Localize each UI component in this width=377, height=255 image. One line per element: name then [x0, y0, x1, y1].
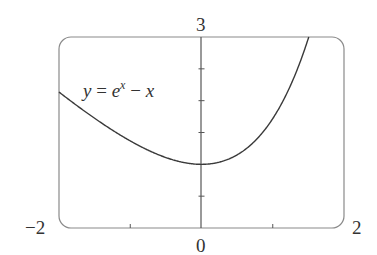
annotation-base: e — [112, 80, 120, 101]
annotation-minus: − — [130, 80, 141, 101]
plot-area — [0, 0, 377, 255]
function-annotation: y = ex − x — [83, 79, 154, 100]
x-max-label: 2 — [352, 218, 362, 237]
annotation-exponent: x — [120, 78, 125, 92]
annotation-equals: = — [96, 80, 107, 101]
annotation-x: x — [146, 80, 154, 101]
x-zero-label: 0 — [196, 236, 206, 255]
x-min-label: −2 — [25, 218, 45, 237]
y-max-label: 3 — [196, 15, 206, 34]
annotation-y: y — [83, 80, 91, 101]
